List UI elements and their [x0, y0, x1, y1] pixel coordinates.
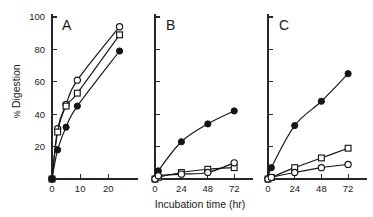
x-tick-label-a-20: 20	[103, 183, 114, 194]
y-tick-label-60: 60	[34, 76, 45, 87]
y-tick-label-80: 80	[34, 44, 45, 55]
marker-a-open-square-4	[117, 32, 123, 38]
marker-c-filled-circle-1	[268, 165, 274, 171]
marker-a-open-circle-3	[74, 77, 80, 83]
y-tick-label-100: 100	[29, 11, 45, 22]
y-tick-label-40: 40	[34, 109, 45, 120]
marker-a-filled-circle-0	[49, 176, 55, 182]
marker-c-open-circle-1	[268, 174, 274, 180]
x-tick-label-b-24: 24	[176, 183, 187, 194]
x-tick-label-b-48: 48	[203, 183, 214, 194]
marker-a-open-square-2	[63, 103, 69, 109]
x-tick-label-b-0: 0	[152, 183, 157, 194]
panel-label-b: B	[166, 17, 175, 33]
percent-glyph: %	[12, 108, 22, 118]
marker-a-filled-circle-3	[74, 103, 80, 109]
x-tick-label-b-72: 72	[229, 183, 240, 194]
y-axis-title: % Digestion	[10, 64, 22, 118]
x-tick-label-c-72: 72	[343, 183, 354, 194]
x-tick-label-c-0: 0	[265, 183, 270, 194]
marker-c-open-circle-3	[318, 165, 324, 171]
chart-canvas: 2040608010001020A0244872B0244872C% Diges…	[0, 0, 373, 217]
y-axis-title-text: Digestion	[10, 64, 22, 108]
panel-label-a: A	[62, 17, 72, 33]
x-axis-title: Incubation time (hr)	[155, 198, 245, 210]
marker-a-filled-circle-2	[63, 124, 69, 130]
marker-b-filled-circle-3	[205, 121, 211, 127]
marker-a-filled-circle-4	[116, 48, 122, 54]
panel-label-c: C	[279, 17, 289, 33]
marker-a-open-circle-4	[116, 24, 122, 30]
marker-b-filled-circle-4	[231, 108, 237, 114]
marker-c-open-circle-2	[292, 169, 298, 175]
marker-c-open-circle-4	[345, 161, 351, 167]
series-line-c-open-square	[268, 148, 348, 179]
y-tick-label-20: 20	[34, 141, 45, 152]
marker-c-filled-circle-4	[345, 71, 351, 77]
x-tick-label-c-24: 24	[289, 183, 300, 194]
series-line-c-open-circle	[268, 164, 348, 179]
marker-c-open-square-4	[345, 145, 351, 151]
marker-b-open-circle-1	[155, 173, 161, 179]
figure-container: 2040608010001020A0244872B0244872C% Diges…	[0, 0, 373, 217]
x-tick-label-a-10: 10	[75, 183, 86, 194]
marker-c-filled-circle-2	[292, 122, 298, 128]
marker-c-open-square-3	[319, 155, 325, 161]
marker-a-open-square-3	[74, 90, 80, 96]
marker-a-open-square-1	[55, 129, 61, 135]
chart-graphics: 2040608010001020A0244872B0244872C% Diges…	[10, 11, 367, 210]
marker-b-filled-circle-2	[178, 139, 184, 145]
x-tick-label-c-48: 48	[316, 183, 327, 194]
marker-b-open-circle-4	[231, 160, 237, 166]
marker-b-open-circle-3	[205, 169, 211, 175]
marker-c-filled-circle-3	[318, 98, 324, 104]
marker-b-open-circle-2	[178, 171, 184, 177]
marker-a-filled-circle-1	[55, 147, 61, 153]
series-line-a-open-square	[52, 35, 120, 179]
x-tick-label-a-0: 0	[49, 183, 54, 194]
